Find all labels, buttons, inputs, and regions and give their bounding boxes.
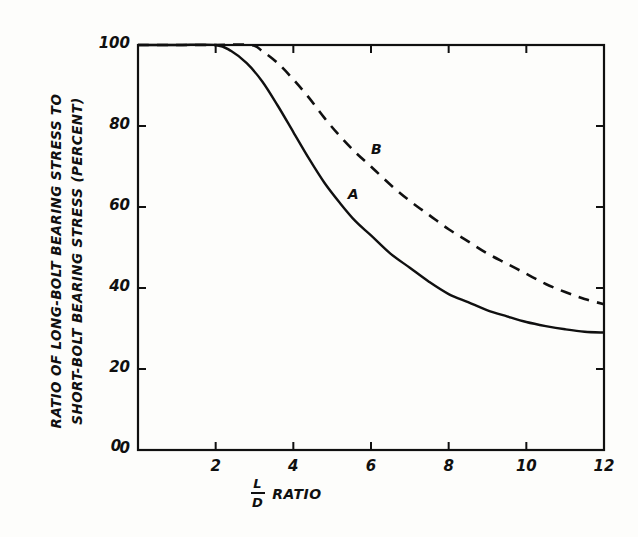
axes-frame: [138, 45, 604, 450]
fraction-numerator: L: [251, 477, 264, 491]
fraction-denominator: D: [250, 495, 265, 509]
x-axis-label: L D RATIO: [250, 478, 322, 510]
curve-label-a: A: [348, 186, 359, 202]
figure-chart: RATIO OF LONG-BOLT BEARING STRESS TO SHO…: [0, 0, 638, 537]
curve-a: [138, 45, 604, 333]
x-tick-label: 6: [351, 457, 391, 475]
y-tick-label: 80: [109, 115, 130, 133]
x-tick-label: 0: [96, 437, 136, 455]
l-over-d-fraction: L D: [250, 477, 265, 509]
fraction-bar: [251, 492, 265, 494]
y-axis-label: RATIO OF LONG-BOLT BEARING STRESS TO SHO…: [46, 51, 88, 471]
x-tick-label: 2: [196, 457, 236, 475]
y-tick-label: 20: [109, 358, 130, 376]
curve-label-b: B: [371, 141, 382, 157]
curve-b: [138, 45, 604, 305]
x-tick-label: 12: [584, 457, 624, 475]
y-axis-label-line-2: SHORT-BOLT BEARING STRESS (PERCENT): [67, 51, 88, 471]
axis-ticks: [138, 45, 604, 450]
x-tick-label: 10: [506, 457, 546, 475]
y-tick-label: 60: [109, 196, 130, 214]
x-axis-label-text: RATIO: [272, 486, 321, 502]
y-tick-label: 40: [109, 277, 130, 295]
x-tick-label: 8: [429, 457, 469, 475]
plot-frame: [138, 45, 604, 450]
x-tick-label: 4: [273, 457, 313, 475]
data-curves: [138, 45, 604, 333]
y-axis-label-line-1: RATIO OF LONG-BOLT BEARING STRESS TO: [46, 51, 67, 471]
y-tick-label: 100: [99, 34, 130, 52]
